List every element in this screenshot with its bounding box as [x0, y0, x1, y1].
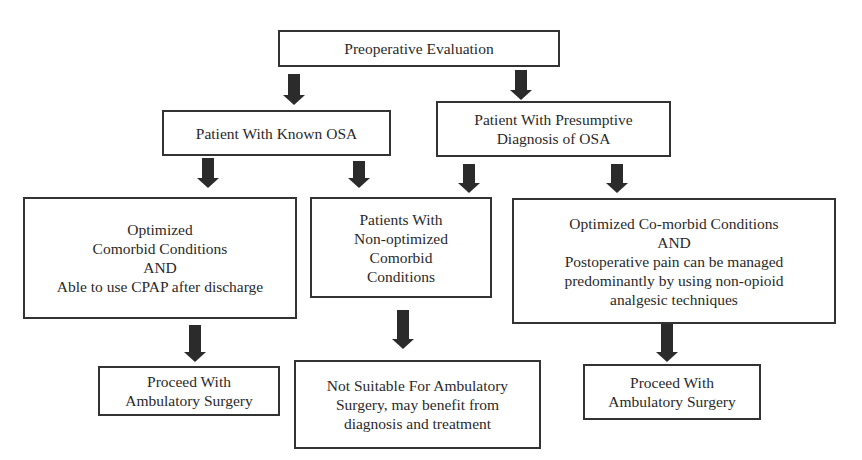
arrow-down-icon	[606, 164, 628, 193]
node-label: Not Suitable For Ambulatory Surgery, may…	[327, 376, 508, 433]
node-label: Patient With Known OSA	[196, 124, 357, 143]
proceed-ambulatory-left-node: Proceed With Ambulatory Surgery	[98, 366, 280, 416]
optimized-comorbid-non-opioid-node: Optimized Co-morbid Conditions AND Posto…	[512, 198, 836, 324]
proceed-ambulatory-right-node: Proceed With Ambulatory Surgery	[583, 364, 761, 420]
arrow-down-icon	[197, 158, 219, 188]
arrow-down-icon	[510, 70, 532, 100]
preoperative-evaluation-node: Preoperative Evaluation	[278, 30, 560, 67]
node-label: Proceed With Ambulatory Surgery	[608, 373, 736, 411]
known-osa-node: Patient With Known OSA	[162, 110, 391, 156]
node-label: Patients With Non-optimized Comorbid Con…	[354, 210, 448, 286]
presumptive-osa-node: Patient With Presumptive Diagnosis of OS…	[436, 101, 671, 157]
arrow-down-icon	[348, 161, 370, 188]
arrow-down-icon	[656, 324, 678, 362]
arrow-down-icon	[392, 310, 414, 350]
node-label: Optimized Comorbid Conditions AND Able t…	[57, 220, 264, 296]
node-label: Patient With Presumptive Diagnosis of OS…	[474, 110, 632, 148]
not-suitable-node: Not Suitable For Ambulatory Surgery, may…	[294, 360, 541, 449]
arrow-down-icon	[283, 74, 305, 105]
arrow-down-icon	[184, 325, 206, 363]
osa-ambulatory-surgery-flowchart: Preoperative Evaluation Patient With Kno…	[0, 0, 862, 460]
arrow-down-icon	[458, 164, 480, 193]
non-optimized-comorbid-node: Patients With Non-optimized Comorbid Con…	[310, 197, 492, 298]
optimized-comorbid-cpap-node: Optimized Comorbid Conditions AND Able t…	[23, 197, 297, 319]
node-label: Proceed With Ambulatory Surgery	[125, 372, 253, 410]
node-label: Optimized Co-morbid Conditions AND Posto…	[564, 214, 783, 309]
node-label: Preoperative Evaluation	[344, 39, 493, 58]
